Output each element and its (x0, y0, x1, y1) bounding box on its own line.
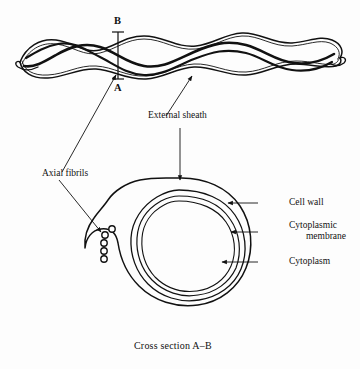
fibril-circle-1 (109, 226, 115, 232)
fibril-circle-5 (101, 256, 107, 262)
cell-wall-ring (131, 190, 245, 301)
label-external-sheath: External sheath (148, 110, 207, 121)
leader-lines-right (222, 203, 258, 262)
fibril-circle-3 (101, 240, 107, 246)
section-marker-a: A (114, 82, 122, 94)
leader-axial-fibrils-top (62, 75, 116, 172)
label-cytoplasmic-membrane: Cytoplasmic membrane (289, 220, 360, 241)
cytoplasmic-membrane-ring (137, 196, 240, 296)
figure-caption: Cross section A–B (134, 340, 212, 351)
cytoplasm-boundary (142, 201, 235, 291)
axial-fibrils-cluster (101, 226, 115, 262)
leader-axial-fibrils-cross (59, 180, 101, 232)
cross-section (59, 128, 251, 306)
spirochete-figure: B A External sheath Axial fibrils Cell w… (0, 0, 360, 369)
sheath-outline-upper-inner (22, 36, 339, 64)
fibril-circle-2 (102, 232, 108, 238)
section-marker-b: B (114, 15, 121, 27)
label-cell-wall: Cell wall (289, 197, 324, 208)
label-cytoplasmic-membrane-line1: Cytoplasmic (289, 220, 360, 231)
diagram-canvas (0, 0, 360, 369)
label-cytoplasm: Cytoplasm (289, 256, 330, 267)
label-axial-fibrils: Axial fibrils (42, 168, 88, 179)
fibril-circle-4 (101, 248, 107, 254)
leader-lines-upper (62, 75, 192, 172)
label-cytoplasmic-membrane-line2: membrane (289, 231, 360, 242)
spirochete-cell (16, 33, 346, 79)
